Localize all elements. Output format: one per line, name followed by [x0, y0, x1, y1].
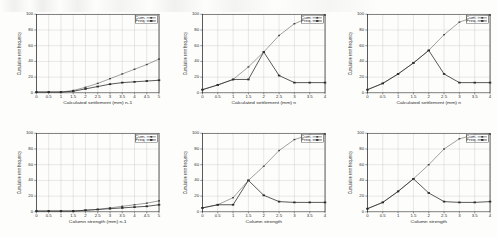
data-point-marker	[134, 69, 136, 70]
x-tick-label: 5	[158, 214, 160, 217]
y-tick-label: 80	[28, 29, 33, 32]
data-point-marker	[397, 191, 399, 193]
y-tick-label: 20	[194, 195, 199, 198]
x-tick-label: 4	[489, 214, 491, 217]
y-tick-label: 0	[362, 91, 364, 94]
x-tick-label: 3.5	[306, 214, 312, 217]
chart-svg: 02040608010000.511.522.533.54Column stre…	[331, 119, 497, 238]
x-tick-label: 2	[428, 214, 430, 217]
x-tick-label: 1	[397, 95, 399, 98]
data-point-marker	[121, 73, 123, 74]
plot-area: 02040608010000.511.522.533.54Column stre…	[166, 119, 332, 238]
plot-area: 02040608010000.511.522.533.544.55Column …	[0, 119, 166, 238]
data-point-marker	[146, 64, 148, 65]
data-point-marker	[247, 66, 249, 67]
figure-panel-grid: 02040608010000.511.522.533.544.55Calcula…	[0, 0, 497, 238]
x-tick-label: 1.5	[245, 95, 251, 98]
legend-sample-marker	[481, 139, 483, 141]
data-point-marker	[158, 200, 160, 201]
x-tick-label: 0.5	[46, 214, 52, 217]
y-tick-label: 100	[26, 132, 33, 135]
x-tick-label: 2.5	[276, 95, 282, 98]
legend-label: Freq.	[301, 138, 311, 142]
x-tick-label: 5	[158, 95, 160, 98]
x-tick-label: 2.5	[95, 214, 101, 217]
data-point-marker	[413, 62, 415, 64]
data-point-marker	[232, 79, 234, 81]
legend-sample-marker	[316, 139, 318, 141]
legend-sample-marker	[481, 20, 483, 22]
data-point-marker	[443, 201, 445, 203]
x-tick-label: 1.5	[411, 214, 417, 217]
legend-sample-marker	[150, 139, 152, 141]
data-point-marker	[247, 79, 249, 81]
chart-svg: 02040608010000.511.522.533.54Column stre…	[166, 119, 332, 238]
data-point-marker	[60, 91, 62, 93]
x-tick-label: 2	[428, 95, 430, 98]
x-tick-label: 4	[489, 95, 491, 98]
data-point-marker	[146, 80, 148, 82]
data-point-marker	[84, 209, 86, 211]
data-point-marker	[85, 87, 87, 88]
data-point-marker	[459, 82, 461, 84]
x-tick-label: 2	[262, 95, 264, 98]
y-tick-label: 0	[196, 91, 198, 94]
data-point-marker	[158, 58, 160, 59]
data-point-marker	[97, 83, 99, 84]
x-axis-label: Column strength	[411, 219, 448, 223]
plot-area: 02040608010000.511.522.533.54Column stre…	[331, 119, 497, 238]
x-tick-label: 3	[293, 95, 295, 98]
x-tick-label: 0.5	[380, 214, 386, 217]
data-point-marker	[158, 204, 160, 206]
y-axis-label: Cumulative error frequency	[347, 150, 353, 194]
legend-sample-marker	[316, 17, 318, 18]
data-point-marker	[308, 82, 310, 84]
x-tick-label: 1.5	[411, 95, 417, 98]
data-point-marker	[459, 202, 461, 204]
legend-label: Freq.	[135, 19, 145, 23]
data-point-marker	[97, 209, 99, 211]
chart-panel: 02040608010000.511.522.533.544.55Column …	[0, 119, 166, 238]
y-tick-label: 100	[357, 132, 364, 135]
legend-sample-marker	[150, 136, 152, 137]
y-tick-label: 80	[28, 148, 33, 151]
data-point-marker	[216, 204, 218, 206]
y-tick-label: 20	[360, 195, 365, 198]
y-tick-label: 40	[360, 60, 365, 63]
y-tick-label: 60	[28, 44, 33, 47]
x-tick-label: 2.5	[276, 214, 282, 217]
data-point-marker	[121, 82, 123, 84]
data-point-marker	[278, 75, 280, 77]
x-tick-label: 1	[60, 214, 62, 217]
x-tick-label: 0.5	[214, 214, 220, 217]
chart-panel: 02040608010000.511.522.533.54Calculated …	[331, 0, 497, 119]
y-tick-label: 60	[28, 163, 33, 166]
data-point-marker	[84, 88, 86, 90]
x-tick-label: 3.5	[472, 214, 478, 217]
x-axis-label: Calculated settlement (mm) n	[397, 100, 462, 104]
data-point-marker	[133, 206, 135, 208]
y-tick-label: 40	[28, 60, 33, 63]
y-tick-label: 20	[28, 76, 33, 79]
data-point-marker	[324, 133, 326, 134]
legend-sample-marker	[316, 136, 318, 137]
chart-panel: 02040608010000.511.522.533.54Calculated …	[166, 0, 332, 119]
data-point-marker	[443, 73, 445, 75]
data-point-marker	[109, 78, 111, 79]
y-tick-label: 100	[192, 13, 199, 16]
data-point-marker	[382, 202, 384, 204]
data-point-marker	[232, 204, 234, 206]
data-point-marker	[413, 178, 415, 180]
x-tick-label: 3.5	[472, 95, 478, 98]
data-point-marker	[158, 79, 160, 81]
legend-label: Freq.	[135, 138, 145, 142]
x-tick-label: 3	[109, 214, 111, 217]
x-tick-label: 1.5	[70, 95, 76, 98]
legend-sample-marker	[150, 20, 152, 22]
y-axis-label: Cumulative error frequency	[182, 150, 188, 194]
y-tick-label: 60	[194, 163, 199, 166]
data-point-marker	[474, 202, 476, 204]
chart-svg: 02040608010000.511.522.533.54Calculated …	[331, 0, 497, 119]
y-tick-label: 20	[28, 195, 33, 198]
data-point-marker	[201, 89, 203, 91]
